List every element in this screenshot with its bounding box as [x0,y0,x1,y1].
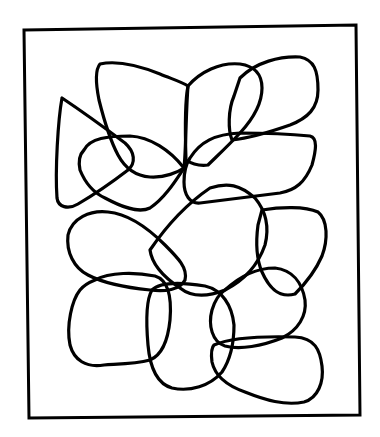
loops-drawing [0,0,380,437]
